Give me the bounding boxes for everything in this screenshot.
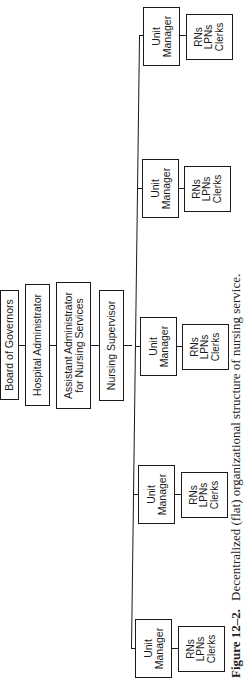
staff-box-4: RNsLPNsClerks (184, 166, 231, 212)
unit-manager-box-1: UnitManager (135, 619, 172, 678)
unit-manager-label: Unit (146, 474, 157, 515)
org-chart-figure: Board of Governors Hospital Administrato… (0, 0, 250, 680)
assistant-administrator-box: Assistant Administrator for Nursing Serv… (56, 282, 91, 409)
unit-manager-box-2: UnitManager (138, 465, 175, 524)
unit-manager-box-4: UnitManager (142, 159, 179, 218)
hospital-administrator-box: Hospital Administrator (25, 284, 50, 406)
trunk-line (131, 35, 140, 649)
unit-manager-label: Unit (150, 168, 161, 209)
figure-caption-text: Decentralized (flat) organizational stru… (228, 274, 243, 601)
asst-admin-label-line1: Assistant Administrator (63, 292, 74, 399)
connector-supervisor-trunk (124, 345, 132, 346)
unit-manager-label: Manager (157, 474, 168, 515)
connector-asst-supervisor (91, 345, 99, 346)
staff-box-2: RNsLPNsClerks (181, 472, 228, 518)
staff-clerks: Clerks (210, 481, 221, 509)
unit-manager-label: Unit (151, 16, 162, 57)
staff-box-5: RNsLPNsClerks (186, 14, 233, 60)
staff-box-1: RNsLPNsClerks (178, 626, 225, 672)
nursing-supervisor-box: Nursing Supervisor (99, 290, 124, 401)
figure-caption: Figure 12–2.Decentralized (flat) organiz… (228, 274, 244, 678)
staff-clerks: Clerks (207, 635, 218, 663)
unit-manager-label: Manager (161, 168, 172, 209)
hospital-admin-label: Hospital Administrator (32, 294, 43, 396)
asst-admin-label-line2: for Nursing Services (74, 292, 85, 399)
staff-clerks: Clerks (213, 175, 224, 203)
staff-clerks: Clerks (215, 23, 226, 51)
nursing-supervisor-label: Nursing Supervisor (106, 301, 117, 390)
unit-manager-label: Manager (154, 628, 165, 669)
figure-number: Figure 12–2. (228, 609, 243, 678)
staff-clerks: Clerks (211, 333, 222, 361)
staff-box-3: RNsLPNsClerks (182, 324, 229, 370)
unit-manager-box-5: UnitManager (143, 7, 180, 66)
unit-manager-label: Unit (148, 326, 159, 367)
unit-manager-label: Manager (159, 326, 170, 367)
unit-manager-box-3: UnitManager (140, 317, 177, 376)
unit-manager-label: Unit (143, 628, 154, 669)
unit-manager-label: Manager (162, 16, 173, 57)
board-of-governors-box: Board of Governors (0, 290, 19, 400)
board-label: Board of Governors (4, 299, 15, 391)
